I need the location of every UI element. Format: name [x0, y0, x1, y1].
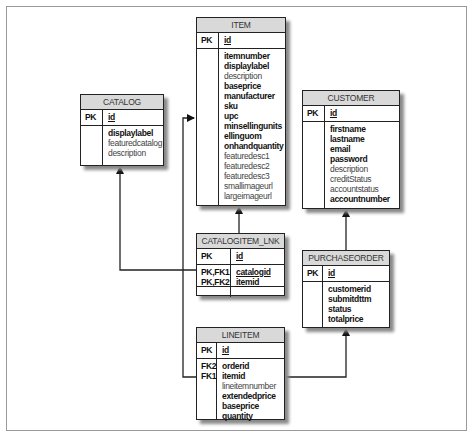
entity-field: extendedprice [222, 391, 284, 401]
connector-lineitem-to-purchaseorder [284, 329, 346, 377]
entity-field: quantity [222, 411, 284, 421]
key-column [303, 122, 325, 208]
entity-field: accountnumber [330, 194, 399, 204]
entity-title: LINEITEM [197, 328, 284, 343]
pk-label: PK [303, 266, 323, 281]
entity-field: baseprice [222, 401, 284, 411]
entity-field: orderid [222, 361, 284, 371]
entity-field: ellinguom [224, 131, 285, 141]
key-column [303, 282, 323, 327]
entity-field: firstname [330, 124, 399, 134]
key-labels: PK,FK1 PK,FK2 [197, 265, 231, 286]
key-column [197, 49, 219, 206]
field-list: firstnamelastnameemailpassworddescriptio… [325, 122, 399, 208]
field-list-empty [231, 287, 284, 297]
entity-title: PURCHASEORDER [303, 251, 389, 266]
entity-field: manufacturer [224, 91, 285, 101]
pk-field: id [224, 35, 285, 46]
entity-field: baseprice [224, 81, 285, 91]
key-label: FK2 [201, 361, 216, 371]
entity-field: description [224, 71, 285, 81]
entity-title: CATALOGITEM_LNK [197, 234, 284, 249]
pk-label: PK [303, 106, 325, 121]
connector-lineitem-to-item [183, 118, 196, 377]
entity-field: password [330, 154, 399, 164]
key-column [81, 126, 103, 165]
pk-field: id [108, 112, 163, 123]
entity-catalogitem-lnk: CATALOGITEM_LNK PK id PK,FK1 PK,FK2 cata… [196, 233, 285, 296]
entity-field: creditStatus [330, 174, 399, 184]
entity-field: displaylabel [224, 61, 285, 71]
entity-lineitem: LINEITEM PK id FK2 FK1 orderiditemidline… [196, 327, 285, 420]
entity-customer: CUSTOMER PK id firstnamelastnameemailpas… [302, 90, 400, 209]
connector-lnk-to-catalog [120, 167, 196, 270]
entity-field: largeimageurl [224, 191, 285, 201]
key-label: FK1 [201, 371, 216, 381]
entity-title: CUSTOMER [303, 91, 399, 106]
entity-field: minsellingunits [224, 121, 285, 131]
key-column-empty [197, 287, 231, 297]
field-list: displaylabelfeaturedcatalogdescription [103, 126, 163, 165]
pk-label: PK [81, 110, 103, 125]
entity-field: status [328, 304, 389, 314]
key-labels: FK2 FK1 [197, 359, 217, 419]
entity-item: ITEM PK id itemnumberdisplaylabeldescrip… [196, 17, 286, 206]
entity-field: itemnumber [224, 51, 285, 61]
pk-field: id [222, 345, 284, 356]
key-label: PK,FK1 [201, 267, 230, 277]
entity-catalog: CATALOG PK id displaylabelfeaturedcatalo… [80, 94, 164, 166]
field-list: customeridsubmitdttmstatustotalprice [323, 282, 389, 327]
entity-purchaseorder: PURCHASEORDER PK id customeridsubmitdttm… [302, 250, 390, 328]
entity-field: customerid [328, 284, 389, 294]
pk-field: id [330, 108, 399, 119]
entity-field: email [330, 144, 399, 154]
entity-field: submitdttm [328, 294, 389, 304]
entity-field: lineitemnumber [222, 381, 284, 391]
field-list: itemnumberdisplaylabeldescriptionbasepri… [219, 49, 285, 206]
entity-field: featuredesc2 [224, 161, 285, 171]
pk-label: PK [197, 249, 231, 264]
entity-field: description [330, 164, 399, 174]
entity-field: upc [224, 111, 285, 121]
entity-field: accountstatus [330, 184, 399, 194]
entity-field: featuredesc3 [224, 171, 285, 181]
entity-field: itemid [222, 371, 284, 381]
entity-field: displaylabel [108, 128, 163, 138]
field-list: orderiditemidlineitemnumberextendedprice… [217, 359, 284, 419]
pk-field: id [236, 251, 284, 262]
entity-field: totalprice [328, 314, 389, 324]
entity-field: lastname [330, 134, 399, 144]
field-list: catalogiditemid [231, 265, 284, 286]
entity-field: catalogid [236, 267, 284, 277]
entity-field: featuredesc1 [224, 151, 285, 161]
entity-title: CATALOG [81, 95, 163, 110]
pk-field: id [328, 268, 389, 279]
entity-field: onhandquantity [224, 141, 285, 151]
entity-field: featuredcatalog [108, 138, 163, 148]
entity-field: description [108, 148, 163, 158]
entity-title: ITEM [197, 18, 285, 33]
key-label: PK,FK2 [201, 277, 230, 287]
entity-field: itemid [236, 277, 284, 287]
entity-field: smallimageurl [224, 181, 285, 191]
pk-label: PK [197, 343, 217, 358]
pk-label: PK [197, 33, 219, 48]
entity-field: sku [224, 101, 285, 111]
